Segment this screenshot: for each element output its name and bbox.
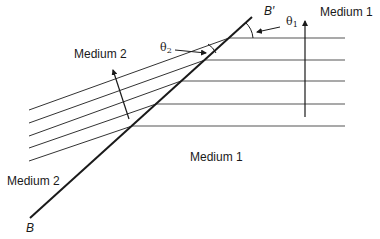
medium2-lower-label: Medium 2 xyxy=(7,175,60,187)
theta2-subscript: 2 xyxy=(167,46,172,55)
boundary-label-b-prime: B′ xyxy=(264,5,274,17)
medium2-wavefront xyxy=(29,81,181,136)
theta1-label: θ1 xyxy=(286,16,298,29)
medium1-bottom-label: Medium 1 xyxy=(190,151,243,163)
interface-line xyxy=(30,17,252,218)
theta2-label: θ2 xyxy=(160,42,172,55)
boundary-label-b: B xyxy=(26,222,34,234)
theta2-pointer-arrow xyxy=(175,50,206,53)
medium2-upper-label: Medium 2 xyxy=(74,48,127,60)
theta2-angle-arc xyxy=(208,44,216,53)
medium2-wavefronts xyxy=(29,38,229,161)
medium1-top-label: Medium 1 xyxy=(320,6,373,18)
medium2-wavefront xyxy=(29,38,229,110)
theta1-angle-arc xyxy=(245,22,253,38)
theta1-symbol: θ xyxy=(286,15,293,28)
medium2-wavefront xyxy=(29,60,205,123)
theta1-subscript: 1 xyxy=(293,20,298,29)
medium2-wavefront xyxy=(29,126,132,161)
refraction-diagram xyxy=(0,0,380,239)
theta1-pointer-arrow xyxy=(257,27,280,32)
theta2-symbol: θ xyxy=(160,41,167,54)
